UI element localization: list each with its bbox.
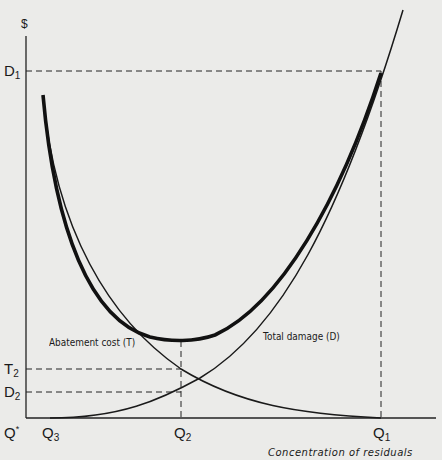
total-damage-label: Total damage (D)	[263, 330, 340, 342]
tick-t2: T2	[4, 361, 19, 379]
x-axis-title: Concentration of residuals	[268, 447, 413, 458]
total-cost-curve	[43, 73, 381, 341]
y-axis-label: $	[21, 18, 28, 30]
chart-canvas	[0, 0, 442, 460]
tick-q2: Q2	[174, 425, 191, 443]
tick-q3: Q3	[42, 425, 59, 443]
tick-d1: D1	[4, 63, 20, 81]
tick-d2: D2	[4, 384, 20, 402]
tick-qstar: Q*	[4, 425, 19, 440]
tick-q1: Q1	[373, 425, 390, 443]
abatement-cost-label: Abatement cost (T)	[49, 336, 135, 348]
